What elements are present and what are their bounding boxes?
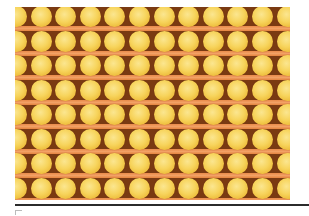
sphere <box>277 55 290 76</box>
sphere <box>252 104 273 125</box>
sphere <box>104 104 125 125</box>
sphere <box>129 129 150 150</box>
sphere <box>31 31 52 52</box>
sphere <box>178 55 199 76</box>
row-band <box>15 198 290 201</box>
sphere <box>129 31 150 52</box>
sphere <box>252 55 273 76</box>
caption-mark <box>15 210 22 215</box>
row-band <box>15 26 290 31</box>
sphere <box>129 80 150 101</box>
sphere <box>55 104 76 125</box>
sphere <box>277 129 290 150</box>
sphere <box>15 178 27 199</box>
sphere <box>154 178 175 199</box>
sphere <box>104 178 125 199</box>
sphere <box>15 153 27 174</box>
sphere <box>203 80 224 101</box>
sphere <box>80 7 101 27</box>
sphere <box>129 104 150 125</box>
row-band <box>15 75 290 80</box>
sphere <box>178 129 199 150</box>
sphere <box>277 80 290 101</box>
row-band <box>15 149 290 154</box>
row-band <box>15 100 290 105</box>
sphere <box>277 7 290 27</box>
sphere <box>55 55 76 76</box>
sphere <box>55 80 76 101</box>
sphere <box>31 153 52 174</box>
sphere <box>129 7 150 27</box>
sphere <box>178 7 199 27</box>
sphere <box>80 178 101 199</box>
sphere <box>227 80 248 101</box>
sphere <box>252 7 273 27</box>
sphere <box>104 129 125 150</box>
sphere <box>55 129 76 150</box>
row-band <box>15 173 290 178</box>
sphere <box>203 55 224 76</box>
sphere <box>55 153 76 174</box>
sphere <box>129 55 150 76</box>
sphere <box>55 178 76 199</box>
horizontal-rule <box>15 204 309 206</box>
sphere <box>227 178 248 199</box>
sphere <box>31 129 52 150</box>
sphere <box>129 153 150 174</box>
sphere <box>80 80 101 101</box>
sphere <box>15 129 27 150</box>
sphere <box>80 104 101 125</box>
sphere <box>203 153 224 174</box>
sphere <box>203 104 224 125</box>
sphere <box>178 104 199 125</box>
sphere <box>154 7 175 27</box>
sphere <box>227 7 248 27</box>
sphere <box>178 80 199 101</box>
sphere <box>178 178 199 199</box>
sphere <box>277 178 290 199</box>
sphere <box>15 7 27 27</box>
row-band <box>15 124 290 129</box>
sphere <box>227 55 248 76</box>
sphere <box>252 178 273 199</box>
sphere <box>203 31 224 52</box>
sphere <box>154 55 175 76</box>
sphere <box>15 80 27 101</box>
sphere <box>31 7 52 27</box>
sphere <box>15 31 27 52</box>
sphere <box>154 129 175 150</box>
sphere <box>252 31 273 52</box>
sphere <box>252 80 273 101</box>
sphere <box>227 153 248 174</box>
sphere <box>178 153 199 174</box>
sphere <box>80 31 101 52</box>
sphere <box>227 31 248 52</box>
sphere-grid-photo <box>15 7 290 200</box>
sphere <box>15 104 27 125</box>
sphere <box>203 129 224 150</box>
sphere <box>227 129 248 150</box>
sphere <box>31 55 52 76</box>
sphere <box>129 178 150 199</box>
sphere <box>104 55 125 76</box>
sphere <box>154 80 175 101</box>
sphere <box>80 129 101 150</box>
sphere <box>104 153 125 174</box>
sphere <box>203 178 224 199</box>
sphere <box>80 153 101 174</box>
sphere <box>154 153 175 174</box>
sphere <box>104 80 125 101</box>
sphere <box>252 129 273 150</box>
sphere <box>178 31 199 52</box>
row-band <box>15 51 290 56</box>
sphere <box>203 7 224 27</box>
sphere <box>55 31 76 52</box>
sphere <box>104 31 125 52</box>
sphere <box>154 104 175 125</box>
sphere <box>55 7 76 27</box>
sphere <box>227 104 248 125</box>
sphere <box>277 31 290 52</box>
sphere <box>31 178 52 199</box>
sphere <box>80 55 101 76</box>
sphere <box>31 80 52 101</box>
